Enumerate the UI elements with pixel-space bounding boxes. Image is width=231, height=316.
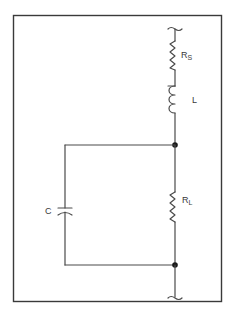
inductor-label: L: [192, 95, 197, 105]
circuit-diagram: RS L C RL: [0, 0, 231, 316]
load-resistor-label: RL: [182, 195, 193, 206]
source-resistor-symbol: [170, 41, 175, 70]
source-resistor-label: RS: [181, 50, 193, 61]
inductor-symbol: [169, 86, 175, 113]
load-resistor-symbol: [170, 192, 175, 222]
capacitor-label: C: [45, 206, 52, 216]
